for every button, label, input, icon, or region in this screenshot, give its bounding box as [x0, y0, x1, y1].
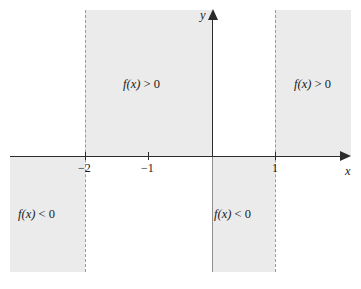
region-label-top-left-fn: f(x) — [123, 77, 140, 91]
x-tick-label-neg2: −2 — [78, 161, 91, 176]
region-label-bottom-left-fn: f(x) — [18, 207, 35, 221]
boundary-line-one — [275, 10, 276, 272]
region-label-bottom-right: f(x) < 0 — [214, 207, 251, 222]
x-axis-arrow-icon — [340, 151, 351, 161]
sign-chart-figure: −2 −1 1 y x f(x) > 0 f(x) > 0 f(x) < 0 f… — [0, 0, 361, 289]
region-label-bottom-right-rel: < 0 — [234, 207, 250, 221]
region-label-top-right: f(x) > 0 — [294, 77, 331, 92]
y-axis-line — [212, 20, 213, 156]
x-tick-neg1 — [148, 152, 149, 160]
region-label-bottom-right-fn: f(x) — [214, 207, 231, 221]
region-label-top-left-rel: > 0 — [143, 77, 159, 91]
y-axis-arrow-icon — [208, 9, 218, 20]
x-tick-label-one: 1 — [272, 161, 278, 176]
x-tick-neg2 — [85, 152, 86, 160]
x-tick-label-neg1: −1 — [141, 161, 154, 176]
boundary-line-neg2 — [85, 10, 86, 272]
region-label-top-right-fn: f(x) — [294, 77, 311, 91]
x-axis-label: x — [345, 164, 351, 179]
region-label-top-left: f(x) > 0 — [123, 77, 160, 92]
region-label-top-right-rel: > 0 — [314, 77, 330, 91]
boundary-line-zero — [212, 156, 213, 272]
region-label-bottom-left-rel: < 0 — [38, 207, 54, 221]
x-tick-one — [275, 152, 276, 160]
region-label-bottom-left: f(x) < 0 — [18, 207, 55, 222]
x-axis-line — [10, 156, 346, 157]
y-axis-label: y — [200, 8, 206, 23]
